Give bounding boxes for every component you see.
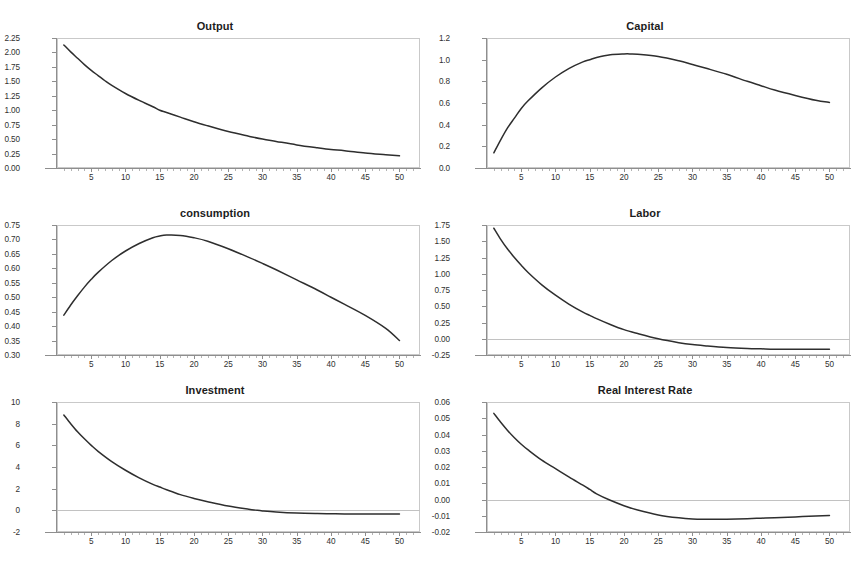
- data-line-real-interest-rate: [494, 413, 830, 519]
- data-line-output: [64, 45, 400, 156]
- chart-panel-investment: Investment-202468105101520253035404550: [0, 382, 430, 571]
- series-svg-consumption: [0, 205, 430, 395]
- series-svg-investment: [0, 382, 430, 571]
- chart-panel-consumption: consumption0.300.350.400.450.500.550.600…: [0, 205, 430, 395]
- series-svg-real-interest-rate: [430, 382, 860, 571]
- data-line-consumption: [64, 235, 400, 341]
- chart-panel-real-interest-rate: Real Interest Rate-0.02-0.010.000.010.02…: [430, 382, 860, 571]
- chart-grid: Output0.000.250.500.751.001.251.501.752.…: [0, 0, 860, 571]
- chart-panel-labor: Labor-0.250.000.250.500.751.001.251.501.…: [430, 205, 860, 395]
- chart-panel-output: Output0.000.250.500.751.001.251.501.752.…: [0, 18, 430, 208]
- data-line-labor: [494, 228, 830, 349]
- series-svg-capital: [430, 18, 860, 208]
- chart-panel-capital: Capital0.00.20.40.60.81.01.2510152025303…: [430, 18, 860, 208]
- data-line-investment: [64, 415, 400, 514]
- figure-page: Output0.000.250.500.751.001.251.501.752.…: [0, 0, 860, 571]
- data-line-capital: [494, 54, 830, 153]
- series-svg-labor: [430, 205, 860, 395]
- series-svg-output: [0, 18, 430, 208]
